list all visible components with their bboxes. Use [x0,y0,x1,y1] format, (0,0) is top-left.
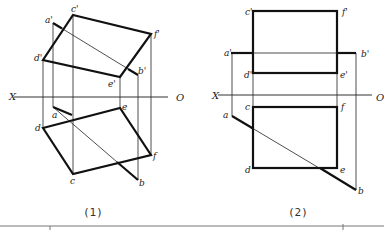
line-ab-top-visible-2 [320,168,356,190]
label-b: b [139,178,145,188]
label-d-prime: d' [244,70,252,80]
plane-cdef-top [253,107,337,168]
figure-1: X O a' b' c' d' e' f' a b c d e f (1) [8,4,184,219]
line-ab-top-visible-2 [117,162,138,180]
label-d: d [245,165,251,175]
label-b: b [358,186,364,196]
label-f: f [152,151,158,161]
label-d-prime: d' [34,53,42,63]
label-a-prime: a' [224,48,232,58]
axis-label-x: X [8,91,17,102]
plane-cdef-front [253,11,337,73]
axis-label-o: O [376,92,384,103]
caption-figure-2: (2) [288,206,308,219]
plane-cdef-front [43,15,151,77]
line-ab-front [53,23,138,75]
label-a: a [52,110,57,120]
axis-label-x: X [211,90,220,101]
label-b-prime: b' [361,49,369,59]
figure-2: X O a' b' c' d' e' f' a b c d e f (2) [211,7,384,219]
label-e-prime: e' [340,70,348,80]
label-c-prime: c' [245,7,253,17]
line-ab-front-visible-2 [128,69,138,75]
caption-figure-1: (1) [83,206,103,219]
axis-label-o: O [176,92,184,103]
label-c-prime: c' [71,4,79,14]
label-c: c [245,102,250,112]
label-d: d [35,123,41,133]
label-f-prime: f' [153,29,160,39]
label-e: e [340,165,345,175]
label-a: a [223,110,228,120]
plane-cdef-top [43,108,151,174]
line-ab-front-visible [53,23,62,29]
label-f: f [340,102,346,112]
label-e: e [122,102,127,112]
label-b-prime: b' [138,66,146,76]
label-a-prime: a' [45,15,53,25]
line-ab-top-visible [232,116,253,129]
projection-drawing: X O a' b' c' d' e' f' a b c d e f (1) [0,0,384,230]
label-c: c [70,176,75,186]
label-e-prime: e' [108,79,116,89]
label-f-prime: f' [341,7,348,17]
